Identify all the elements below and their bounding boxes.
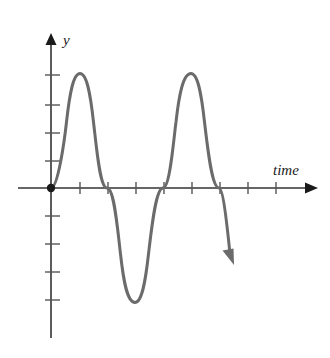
y-axis-arrow-icon xyxy=(46,33,57,45)
sine-wave-figure: y time xyxy=(0,0,330,358)
curve-end-arrow-icon xyxy=(223,249,235,266)
origin-dot xyxy=(47,184,55,192)
x-axis-arrow-icon xyxy=(305,183,318,194)
graph-canvas: y time xyxy=(0,0,330,358)
x-axis-label: time xyxy=(273,162,299,178)
y-axis-label: y xyxy=(61,32,70,48)
